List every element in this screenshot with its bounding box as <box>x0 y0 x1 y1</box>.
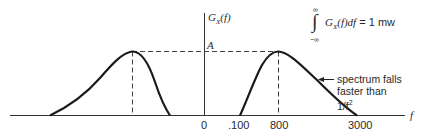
x-tick-100: .100 <box>228 119 249 131</box>
x-tick-3000: 3000 <box>348 119 372 131</box>
negative-frequency-curve <box>50 51 170 115</box>
integral-lower-limit: −∞ <box>310 36 319 43</box>
x-axis-label: f <box>410 109 413 121</box>
integral-body: GX(f)df = 1 mw <box>325 16 395 31</box>
spectrum-falloff-annotation: spectrum falls faster than 1/f2 <box>337 73 402 112</box>
y-axis-label: GX(f) <box>208 11 231 28</box>
peak-label: A <box>207 39 214 51</box>
x-tick-800: 800 <box>270 119 288 131</box>
integral-symbol: ∫ <box>312 10 317 33</box>
x-tick-0: 0 <box>201 119 207 131</box>
